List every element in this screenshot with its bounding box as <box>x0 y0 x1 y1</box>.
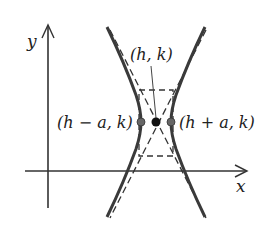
x-axis <box>25 165 247 177</box>
hyperbola-diagram: y x (h, k) (h − a, k) (h + a, k) <box>0 0 269 232</box>
left-vertex-label: (h − a, k) <box>57 113 133 132</box>
left-vertex-point <box>137 118 145 126</box>
y-axis <box>42 25 54 208</box>
right-vertex-label: (h + a, k) <box>179 113 255 132</box>
y-axis-label: y <box>26 31 37 51</box>
right-vertex-point <box>167 118 175 126</box>
center-label: (h, k) <box>130 45 173 64</box>
x-axis-label: x <box>236 176 246 196</box>
center-leader-line <box>151 66 156 118</box>
center-point <box>152 118 161 127</box>
